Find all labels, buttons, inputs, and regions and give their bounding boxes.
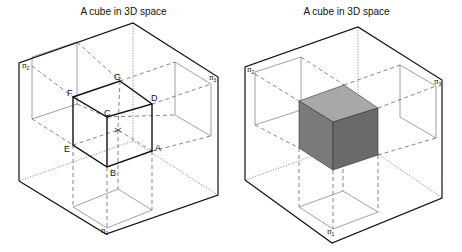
vertex-label-d: D bbox=[151, 93, 158, 103]
figure-wireframe-cube: A cube in 3D space bbox=[0, 0, 231, 252]
shaded-diagram: π2 π3 π1 bbox=[231, 0, 462, 252]
plane-label-pi2: π2 bbox=[247, 66, 255, 75]
vertex-label-g: G bbox=[114, 72, 121, 82]
vertex-label-a: A bbox=[155, 143, 161, 153]
wireframe-diagram: A B C D E F G π2 π3 π1 bbox=[0, 0, 231, 252]
vertex-label-f: F bbox=[67, 88, 73, 98]
projection-lines bbox=[32, 42, 211, 228]
shaded-cube bbox=[299, 85, 378, 170]
plane-label-pi1: π1 bbox=[327, 228, 335, 237]
vertex-label-b: B bbox=[110, 168, 116, 178]
plane-pi3 bbox=[175, 62, 211, 136]
plane-pi1 bbox=[299, 191, 378, 229]
cube-edges bbox=[73, 81, 152, 167]
plane-pi3 bbox=[400, 65, 436, 138]
vertex-label-e: E bbox=[64, 144, 70, 154]
plane-pi2 bbox=[32, 42, 77, 119]
outer-box-edges bbox=[19, 23, 218, 234]
figure-shaded-cube: A cube in 3D space bbox=[231, 0, 462, 252]
plane-pi2 bbox=[255, 57, 301, 125]
projection-planes bbox=[32, 42, 211, 228]
plane-label-pi2: π2 bbox=[22, 62, 30, 71]
vertex-label-c: C bbox=[104, 108, 111, 118]
plane-label-pi1: π1 bbox=[101, 227, 109, 236]
